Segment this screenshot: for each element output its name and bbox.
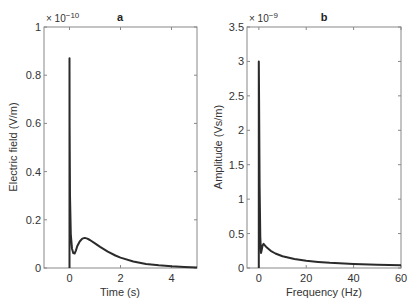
panel-b-data-line xyxy=(259,61,401,268)
y-tick-label: 2 xyxy=(238,124,244,136)
y-tick-label: 0 xyxy=(238,262,244,274)
y-tick-label: 1 xyxy=(238,193,244,205)
x-tick-label: 4 xyxy=(168,272,174,284)
y-tick-label: 2.5 xyxy=(229,90,244,102)
panel-a-y-ticks: 00.20.40.60.81 xyxy=(26,21,197,274)
panel-b-title: b xyxy=(321,11,328,23)
panel-b-x-ticks: 0204060 xyxy=(256,27,407,284)
panel-b-y-ticks: 00.511.522.533.5 xyxy=(229,21,401,274)
panel-a-title: a xyxy=(117,11,124,23)
figure: a × 10−10 00.20.40.60.81 024 Time (s) El… xyxy=(0,0,415,308)
panel-a-x-ticks: 024 xyxy=(66,27,174,284)
y-tick-label: 0.5 xyxy=(229,228,244,240)
y-tick-label: 3.5 xyxy=(229,21,244,33)
x-tick-label: 0 xyxy=(66,272,72,284)
panel-a-data-line xyxy=(70,58,198,268)
panel-b-x-axis-label: Frequency (Hz) xyxy=(286,286,362,298)
y-tick-label: 1.5 xyxy=(229,159,244,171)
panel-a-electric-field-vs-time: a × 10−10 00.20.40.60.81 024 Time (s) El… xyxy=(7,11,197,298)
panel-a-y-multiplier: × 10−10 xyxy=(46,11,80,24)
y-tick-label: 0.8 xyxy=(26,69,41,81)
x-tick-label: 0 xyxy=(256,272,262,284)
x-tick-label: 60 xyxy=(395,272,407,284)
x-tick-label: 2 xyxy=(117,272,123,284)
panel-b-y-multiplier: × 10−9 xyxy=(249,11,278,24)
y-tick-label: 3 xyxy=(238,55,244,67)
y-tick-label: 0 xyxy=(35,262,41,274)
panel-a-y-axis-label: Electric field (V/m) xyxy=(7,102,19,191)
y-tick-label: 0.2 xyxy=(26,214,41,226)
panel-b-y-axis-label: Amplitude (Vs/m) xyxy=(212,105,224,189)
panel-a-plot-area xyxy=(44,27,197,268)
y-tick-label: 0.4 xyxy=(26,166,41,178)
panel-b-amplitude-vs-frequency: b × 10−9 00.511.522.533.5 0204060 Freque… xyxy=(212,11,407,298)
x-tick-label: 20 xyxy=(300,272,312,284)
panel-a-x-axis-label: Time (s) xyxy=(100,286,140,298)
y-tick-label: 0.6 xyxy=(26,117,41,129)
panel-b-plot-area xyxy=(247,27,401,268)
y-tick-label: 1 xyxy=(35,21,41,33)
x-tick-label: 40 xyxy=(347,272,359,284)
